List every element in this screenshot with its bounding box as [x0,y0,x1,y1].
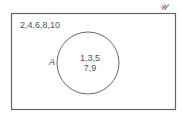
set-a-elements-line2: 7,9 [84,63,97,73]
set-a-label: A [48,57,55,67]
venn-diagram: 𝒰 2,4,6,8,10 A 1,3,5 7,9 [0,0,182,117]
universal-set-label: 𝒰 [159,2,170,12]
outside-elements: 2,4,6,8,10 [20,20,60,30]
set-a-elements-line1: 1,3,5 [80,53,100,63]
